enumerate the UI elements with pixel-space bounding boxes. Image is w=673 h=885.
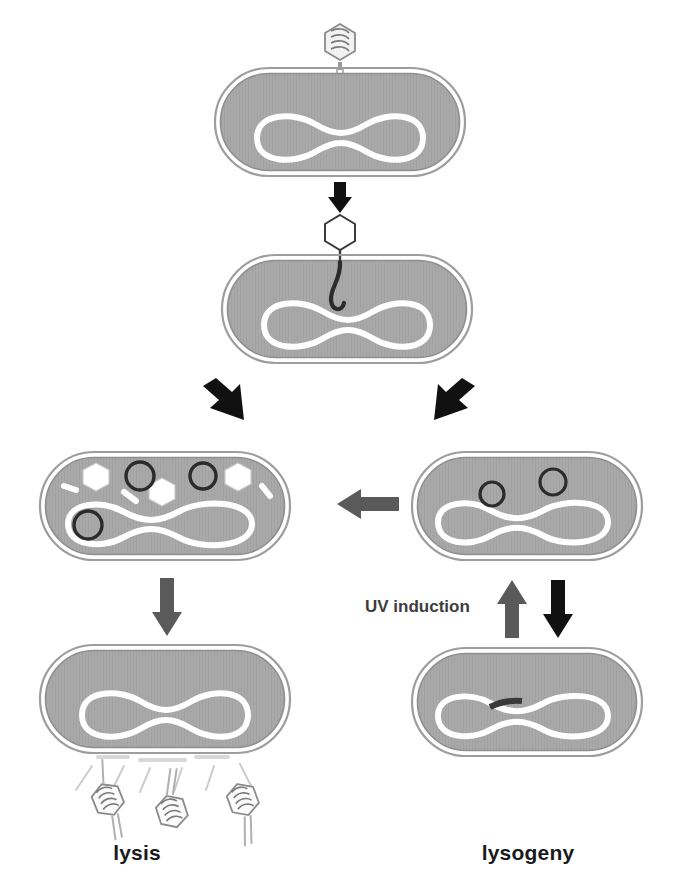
stage-lysogenic-cell: UV induction xyxy=(337,452,642,638)
uv-induction-label: UV induction xyxy=(365,597,470,616)
arrow-uv-induction-up xyxy=(497,580,527,638)
bacterial-cell-lysis xyxy=(40,645,290,753)
cell-wall-fragment xyxy=(98,757,228,760)
lysogeny-label: lysogeny xyxy=(482,841,575,864)
stage-attachment xyxy=(215,24,465,213)
stage-lysis: lysis xyxy=(40,645,290,864)
bacterial-cell-injection xyxy=(222,255,472,363)
bacterial-cell-lysogenic xyxy=(412,452,642,560)
bacterial-cell-prophage xyxy=(412,648,642,756)
stage-injection xyxy=(203,215,475,420)
arrow-assembly-to-lysis xyxy=(152,578,182,636)
released-phage-icon xyxy=(224,779,271,846)
figure-canvas: UV induction xyxy=(0,0,673,885)
arrow-to-lysogeny xyxy=(543,580,573,638)
bacterial-cell-assembly xyxy=(40,452,290,560)
lysis-label: lysis xyxy=(113,841,161,864)
arrow-induction-to-assembly xyxy=(337,489,399,519)
bacterial-cell-attachment xyxy=(215,68,465,176)
stage-assembly xyxy=(40,452,290,636)
released-phage-icon xyxy=(146,766,194,831)
stage-prophage: lysogeny xyxy=(412,648,642,864)
arrow-attachment-to-injection xyxy=(328,182,352,213)
arrow-branch-to-lysogenic xyxy=(434,378,475,420)
arrow-branch-to-lytic xyxy=(203,378,244,420)
